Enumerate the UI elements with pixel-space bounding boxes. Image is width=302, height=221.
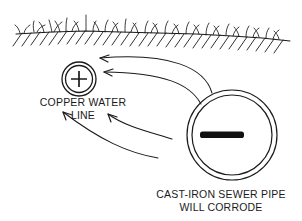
- copper-water-line-label: COPPER WATER LINE: [0, 96, 166, 121]
- copper-water-line-symbol: [62, 62, 96, 96]
- ground-hatching: [13, 31, 283, 53]
- sewer-label-line2: WILL CORRODE: [140, 201, 302, 214]
- minus-icon: [200, 132, 244, 139]
- copper-label-line2: LINE: [0, 109, 166, 122]
- arrow-upper-outer-head: [100, 55, 109, 62]
- arrow-upper-outer-path: [100, 57, 212, 93]
- plus-icon: [71, 71, 87, 87]
- sewer-label-line1: CAST-IRON SEWER PIPE: [156, 188, 285, 200]
- copper-label-line1: COPPER WATER: [40, 96, 126, 108]
- ground-group: [13, 15, 290, 53]
- grass-tufts: [15, 15, 279, 39]
- diagram-canvas: COPPER WATER LINE CAST-IRON SEWER PIPE W…: [0, 0, 302, 221]
- cast-iron-sewer-pipe-label: CAST-IRON SEWER PIPE WILL CORRODE: [140, 188, 302, 213]
